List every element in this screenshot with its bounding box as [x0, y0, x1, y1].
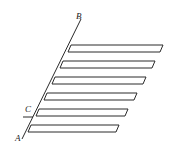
label-a: A — [14, 133, 21, 143]
strip-1 — [68, 45, 163, 52]
label-c: C — [25, 104, 32, 114]
line-ab — [22, 19, 81, 139]
label-b: B — [76, 11, 82, 21]
strip-4 — [44, 93, 137, 100]
strip-6 — [28, 125, 119, 132]
geometry-diagram: B C A — [0, 0, 179, 152]
strip-3 — [52, 77, 146, 84]
strip-5 — [36, 109, 128, 116]
strip-2 — [60, 61, 155, 68]
